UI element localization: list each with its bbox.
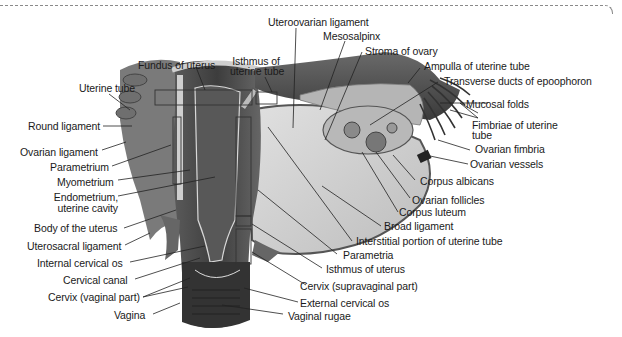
label-cervix-supravaginal: Cervix (supravaginal part) bbox=[300, 281, 418, 292]
label-mucosal-folds: Mucosal folds bbox=[466, 99, 529, 110]
vagina-shape bbox=[182, 262, 250, 328]
label-ovarian-vessels: Ovarian vessels bbox=[470, 159, 543, 170]
label-myometrium: Myometrium bbox=[57, 177, 114, 188]
label-mesosalpinx: Mesosalpinx bbox=[323, 31, 380, 42]
label-fundus-of-uterus: Fundus of uterus bbox=[138, 60, 215, 71]
label-fimbriae-line-2: tube bbox=[472, 130, 558, 140]
label-ampulla-of-uterine-tube: Ampulla of uterine tube bbox=[424, 61, 530, 72]
label-parametria: Parametria bbox=[343, 250, 393, 261]
label-uteroovarian-ligament: Uteroovarian ligament bbox=[268, 17, 369, 28]
label-broad-ligament: Broad ligament bbox=[384, 221, 453, 232]
label-fimbriae-of-uterine-tube: Fimbriae of uterine tube bbox=[472, 120, 558, 140]
label-corpus-albicans: Corpus albicans bbox=[420, 176, 494, 187]
label-ovarian-ligament: Ovarian ligament bbox=[20, 147, 98, 158]
label-uterosacral-ligament: Uterosacral ligament bbox=[27, 241, 121, 252]
label-body-of-uterus: Body of the uterus bbox=[34, 223, 117, 234]
label-isthmus-of-uterine-tube: Isthmus of uterine tube bbox=[230, 56, 282, 76]
label-interstitial-portion: Interstitial portion of uterine tube bbox=[356, 236, 502, 247]
label-round-ligament: Round ligament bbox=[28, 121, 100, 132]
label-ovarian-fimbria: Ovarian fimbria bbox=[475, 144, 545, 155]
label-parametrium: Parametrium bbox=[50, 162, 109, 173]
label-transverse-ducts: Transverse ducts of epoophoron bbox=[444, 76, 592, 87]
label-ovarian-follicles: Ovarian follicles bbox=[412, 195, 484, 206]
label-internal-cervical-os: Internal cervical os bbox=[37, 258, 123, 269]
label-vagina: Vagina bbox=[114, 310, 145, 321]
label-cervical-canal: Cervical canal bbox=[63, 275, 128, 286]
diagram-frame: Uteroovarian ligament Mesosalpinx Stroma… bbox=[0, 0, 622, 337]
label-external-cervical-os: External cervical os bbox=[300, 298, 389, 309]
label-corpus-luteum: Corpus luteum bbox=[399, 207, 466, 218]
label-isthmus-line-2: uterine tube bbox=[230, 66, 282, 76]
label-stroma-of-ovary: Stroma of ovary bbox=[365, 46, 438, 57]
label-uterine-tube: Uterine tube bbox=[79, 83, 135, 94]
label-endometrium-uterine-cavity: Endometrium, uterine cavity bbox=[38, 192, 118, 214]
label-endometrium-line-2: uterine cavity bbox=[38, 203, 118, 214]
label-isthmus-of-uterus: Isthmus of uterus bbox=[326, 264, 405, 275]
label-cervix-vaginal: Cervix (vaginal part) bbox=[48, 292, 140, 303]
label-vaginal-rugae: Vaginal rugae bbox=[288, 311, 351, 322]
